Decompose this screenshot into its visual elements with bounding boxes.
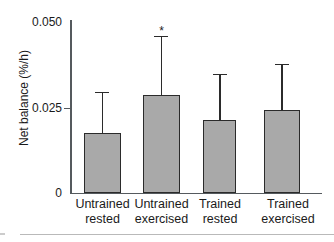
bar-untrained-exercised xyxy=(143,95,180,193)
error-bar-cap-4 xyxy=(275,64,289,66)
bottom-left-rule xyxy=(0,233,5,235)
y-tick-label-0: 0 xyxy=(14,187,62,199)
y-tick-label-050: 0.050 xyxy=(14,16,62,28)
bar-trained-rested xyxy=(203,120,236,193)
x-category-label-4: Trained exercised xyxy=(245,197,331,227)
error-bar-line-4 xyxy=(281,64,283,110)
y-axis-title: Net balance (%/h) xyxy=(16,0,32,196)
bar-untrained-rested xyxy=(84,133,121,193)
bottom-rule xyxy=(20,234,334,235)
y-tick-group-025: 0.025 xyxy=(0,102,62,114)
y-tick-group-050: 0.050 xyxy=(0,16,62,28)
y-tick-mark-025 xyxy=(64,108,71,110)
error-bar-cap-2 xyxy=(154,36,168,38)
x-category-label-3-line1: Trained xyxy=(186,197,254,212)
significance-asterisk-2: * xyxy=(152,26,172,36)
y-tick-label-025: 0.025 xyxy=(14,102,62,114)
x-category-label-3: Trained rested xyxy=(186,197,254,227)
error-bar-cap-3 xyxy=(213,74,227,76)
x-category-label-4-line1: Trained xyxy=(245,197,331,212)
x-category-label-3-line2: rested xyxy=(186,212,254,227)
bar-chart-figure: Net balance (%/h) 0.050 0.025 0 * Untrai… xyxy=(0,0,334,242)
error-bar-line-1 xyxy=(102,92,104,133)
bar-trained-exercised xyxy=(264,110,300,193)
error-bar-line-3 xyxy=(219,74,221,120)
error-bar-cap-1 xyxy=(95,92,109,94)
x-category-label-4-line2: exercised xyxy=(245,212,331,227)
error-bar-line-2 xyxy=(161,36,163,95)
y-tick-group-0: 0 xyxy=(0,187,62,199)
